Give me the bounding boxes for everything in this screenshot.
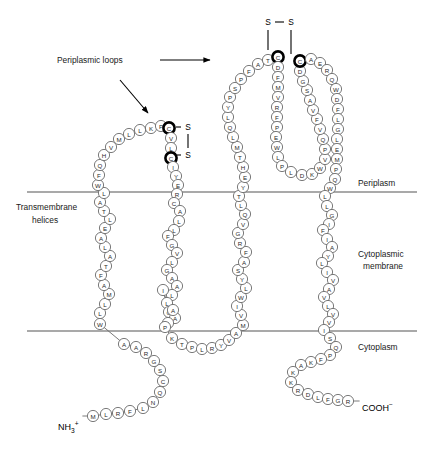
residue-letter: Q <box>321 136 326 143</box>
residue-R: R <box>234 237 245 248</box>
residue-letter: M <box>240 322 245 329</box>
residue-letter: F <box>276 74 280 81</box>
residue-circles: MLRFLNQCSGRAAWLLMAFTALAELTALWFQHVMLLKPCV… <box>87 51 353 421</box>
residue-L: L <box>99 298 110 309</box>
residue-letter: W <box>274 144 280 151</box>
residue-Q: Q <box>154 386 165 397</box>
residue-letter: F <box>247 68 251 75</box>
residue-letter: M <box>90 413 95 420</box>
residue-letter: W <box>333 86 339 93</box>
residue-letter: T <box>180 341 184 348</box>
residue-letter: L <box>323 193 327 200</box>
residue-letter: F <box>319 356 323 363</box>
residue-I: I <box>157 284 168 295</box>
c-terminus-main: COOH <box>362 403 389 413</box>
residue-letter: L <box>325 203 329 210</box>
residue-N: N <box>147 396 158 407</box>
residue-letter: L <box>177 218 181 225</box>
residue-letter: T <box>104 263 108 270</box>
residue-T: T <box>234 151 245 162</box>
residue-letter: M <box>116 136 121 143</box>
residue-letter: F <box>99 272 103 279</box>
residue-letter: L <box>244 285 248 292</box>
residue-K: K <box>305 356 316 367</box>
lower-disulfide-sulfur-top: S <box>185 122 191 132</box>
residue-letter: F <box>326 396 330 403</box>
residue-letter: T <box>102 208 106 215</box>
residue-R: R <box>271 101 282 112</box>
residue-letter: P <box>323 146 327 153</box>
residue-letter: P <box>228 94 232 101</box>
residue-letter: L <box>104 411 108 418</box>
residue-P: P <box>330 163 341 174</box>
residue-letter: W <box>97 321 103 328</box>
residue-letter: W <box>327 185 333 192</box>
residue-letter: Q <box>333 176 338 183</box>
periplasm-label: Periplasm <box>358 178 395 188</box>
residue-letter: R <box>275 104 280 111</box>
residue-letter: M <box>275 84 280 91</box>
residue-F: F <box>315 353 326 364</box>
residue-letter: S <box>328 335 332 342</box>
residue-Q: Q <box>94 159 105 170</box>
residue-letter: L <box>98 310 102 317</box>
residue-A: A <box>118 338 129 349</box>
residue-letter: L <box>169 145 173 152</box>
residue-letter: L <box>326 303 330 310</box>
residue-letter: G <box>330 212 335 219</box>
residue-A: A <box>167 304 178 315</box>
residue-letter: I <box>162 287 164 294</box>
residue-L: L <box>285 166 296 177</box>
residue-E: E <box>331 143 342 154</box>
residue-letter: R <box>175 191 180 198</box>
n-terminus-superscript: + <box>75 420 79 427</box>
residue-letter: Y <box>326 253 330 260</box>
n-terminus-main: NH <box>58 422 71 432</box>
residue-letter: P <box>328 352 332 359</box>
residue-A: A <box>98 279 109 290</box>
residue-W: W <box>94 318 105 329</box>
residue-R: R <box>140 347 151 358</box>
residue-G: G <box>297 75 308 86</box>
residue-letter: L <box>103 301 107 308</box>
residue-F: F <box>272 71 283 82</box>
residue-letter: F <box>97 172 101 179</box>
residue-letter: C <box>298 58 303 65</box>
residue-letter: C <box>276 54 281 61</box>
residue-letter: R <box>346 398 351 405</box>
residue-letter: E <box>335 146 339 153</box>
residue-letter: P <box>163 324 167 331</box>
residue-letter: E <box>176 182 180 189</box>
residue-F: F <box>124 405 135 416</box>
residue-H: H <box>237 161 248 172</box>
residue-letter: Q <box>228 124 233 131</box>
residue-letter: P <box>280 163 284 170</box>
residue-letter: C <box>169 155 174 162</box>
cytoplasmic-membrane-label-line2: membrane <box>363 261 403 271</box>
residue-M: M <box>113 133 124 144</box>
residue-M: M <box>87 410 98 421</box>
residue-letter: F <box>336 106 340 113</box>
residue-letter: G <box>152 358 157 365</box>
residue-letter: E <box>274 134 278 141</box>
membrane-topology-diagram: SSSS MLRFLNQCSGRAAWLLMAFTALAELTALWFQHVML… <box>0 0 434 452</box>
transmembrane-helices-label-line2: helices <box>32 215 58 225</box>
residue-letter: P <box>334 166 338 173</box>
residue-letter: L <box>336 116 340 123</box>
residue-letter: L <box>200 346 204 353</box>
n-terminus-label: NH3+ <box>58 420 79 433</box>
residue-letter: W <box>317 165 323 172</box>
residue-W: W <box>92 179 103 190</box>
residue-G: G <box>332 394 343 405</box>
residue-Q: Q <box>317 133 328 144</box>
residue-letter: Y <box>226 104 230 111</box>
residue-letter: R <box>238 240 243 247</box>
residue-R: R <box>292 384 303 395</box>
residue-F: F <box>332 103 343 114</box>
residue-letter: Y <box>240 276 244 283</box>
residue-letter: Q <box>243 211 248 218</box>
residue-Y: Y <box>222 101 233 112</box>
residue-letter: S <box>236 267 240 274</box>
residue-D: D <box>272 61 283 72</box>
residue-letter: L <box>320 260 324 267</box>
